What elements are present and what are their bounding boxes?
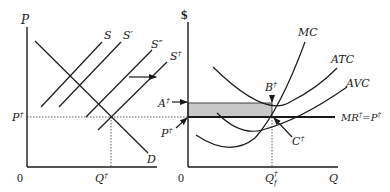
point-a-label: A†	[157, 96, 171, 110]
supply-curve-s-dagger	[98, 62, 167, 130]
point-p-label: P†	[160, 126, 173, 140]
demand-label: D	[146, 153, 156, 166]
right-origin-label: 0	[178, 171, 184, 185]
supply-label-s: S	[104, 29, 112, 42]
supply-curve-s	[41, 42, 102, 107]
mc-label: MC	[297, 26, 318, 39]
left-y-axis-label: P	[20, 13, 30, 27]
point-p-arrow-icon	[176, 118, 187, 128]
point-b-label: B†	[264, 80, 278, 94]
diagram-canvas: P 0 P† Q† D S S′ S″ S† $ 0 Q MR†=P†	[0, 0, 390, 192]
right-y-axis-label: $	[181, 7, 188, 22]
avc-label: AVC	[345, 77, 370, 90]
supply-curve-s-double-prime	[86, 50, 152, 117]
left-origin-label: 0	[17, 171, 23, 185]
atc-label: ATC	[330, 53, 355, 66]
cut-off-caption	[0, 186, 390, 192]
left-quantity-label: Q†	[95, 171, 109, 185]
qf-label: Qf†	[265, 169, 279, 187]
point-c-label: C†	[292, 134, 305, 148]
shaded-loss-area	[188, 103, 272, 117]
left-price-label: P†	[11, 110, 24, 124]
supply-label-s-dagger: S†	[170, 49, 183, 63]
right-x-axis-label: Q	[329, 172, 338, 185]
mr-label: MR†=P†	[340, 111, 381, 123]
supply-label-s-prime: S′	[123, 29, 134, 42]
supply-label-s-double-prime: S″	[151, 38, 164, 51]
right-panel-firm: $ 0 Q MR†=P† Qf† ATC AVC MC B† C† A† P†	[157, 7, 381, 187]
